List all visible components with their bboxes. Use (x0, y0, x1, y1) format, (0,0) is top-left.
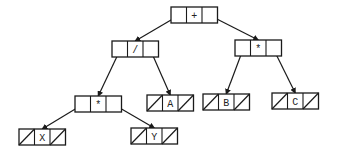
node-label: X (39, 133, 45, 144)
tree-node-X: X (19, 129, 66, 145)
node-label: * (255, 44, 261, 55)
node-label: / (132, 45, 138, 56)
tree-node-Y: Y (131, 128, 178, 144)
tree-node-plus: + (171, 7, 218, 23)
node-label: Y (151, 132, 157, 143)
tree-node-C: C (272, 93, 319, 109)
tree-node-A: A (147, 95, 194, 111)
node-label: B (223, 98, 229, 109)
tree-node-B: B (203, 94, 250, 110)
expression-tree-diagram: +/**ABCXY (0, 0, 337, 156)
node-label: A (167, 99, 173, 110)
nodes: +/**ABCXY (19, 7, 319, 145)
node-label: * (95, 100, 101, 111)
tree-node-div: / (112, 41, 159, 57)
node-label: + (191, 11, 197, 22)
node-label: C (292, 97, 298, 108)
tree-node-mulR: * (235, 40, 282, 56)
tree-node-mulL: * (75, 96, 122, 112)
